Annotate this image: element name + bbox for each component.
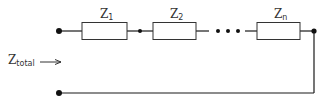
label-z1: Z1 <box>100 7 113 22</box>
label-z-total: Ztotal <box>8 53 35 68</box>
arrow-right-icon <box>40 60 61 65</box>
impedance-box-z1 <box>82 23 127 40</box>
impedance-box-zn <box>257 23 300 40</box>
impedance-box-z2 <box>153 23 196 40</box>
ellipsis-icon <box>216 29 240 33</box>
series-impedance-diagram: Z1 Z2 Zn Ztotal <box>0 0 326 102</box>
junction-node <box>138 29 142 33</box>
return-wire <box>59 31 314 93</box>
terminal-node-bottom <box>56 90 62 96</box>
corner-node <box>311 28 316 33</box>
label-zn: Zn <box>274 7 287 22</box>
label-z2: Z2 <box>170 7 183 22</box>
terminal-node-top <box>56 28 62 34</box>
